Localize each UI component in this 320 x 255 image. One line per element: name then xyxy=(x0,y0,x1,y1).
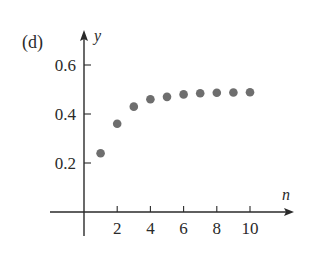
data-point xyxy=(130,102,139,111)
panel-label: (d) xyxy=(22,32,43,53)
scatter-chart: (d) n y 2468100.20.40.6 xyxy=(0,0,320,255)
y-axis-label: y xyxy=(92,27,102,45)
data-point xyxy=(146,95,155,104)
data-point xyxy=(196,89,205,98)
data-point xyxy=(163,93,172,102)
x-tick-label: 6 xyxy=(179,219,188,238)
data-point xyxy=(246,88,255,97)
data-point xyxy=(113,120,122,129)
x-tick-label: 8 xyxy=(213,219,222,238)
axis-ticks: 2468100.20.40.6 xyxy=(55,56,259,238)
x-tick-label: 4 xyxy=(146,219,155,238)
y-tick-label: 0.2 xyxy=(55,154,76,173)
x-tick-label: 10 xyxy=(242,219,259,238)
data-point xyxy=(179,90,188,99)
data-point xyxy=(229,88,238,97)
y-tick-label: 0.4 xyxy=(55,105,77,124)
x-tick-label: 2 xyxy=(113,219,122,238)
data-point xyxy=(213,88,222,97)
x-axis-label: n xyxy=(282,186,290,203)
data-point xyxy=(96,149,105,158)
y-tick-label: 0.6 xyxy=(55,56,76,75)
data-points xyxy=(96,88,254,158)
